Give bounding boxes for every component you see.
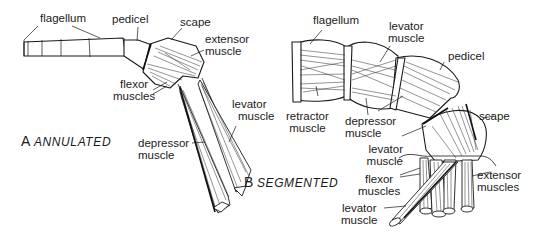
label-a-scape: scape bbox=[180, 16, 211, 28]
label-a-flexor-muscles: flexor muscles bbox=[113, 78, 155, 102]
label-b-levator-muscle-top: levator muscle bbox=[388, 20, 424, 44]
label-b-extensor-muscles: extensor muscles bbox=[477, 169, 521, 193]
label-b-levator-muscle-bottom: levator muscle bbox=[341, 202, 377, 226]
label-b-pedicel: pedicel bbox=[448, 50, 484, 62]
label-a-levator-muscle: levator muscle bbox=[232, 98, 274, 122]
label-a-pedicel: pedicel bbox=[112, 13, 148, 25]
antenna-musculature-figure: flagellum pedicel scape extensor muscle … bbox=[0, 0, 537, 237]
panel-b-caption: B SEGMENTED bbox=[244, 174, 338, 190]
label-b-flexor-muscles: flexor muscles bbox=[358, 173, 400, 197]
label-b-levator-muscle-mid: levator muscle bbox=[356, 143, 403, 167]
label-b-retractor-muscle: retractor muscle bbox=[286, 110, 329, 134]
label-a-extensor-muscle: extensor muscle bbox=[205, 33, 249, 57]
label-a-depressor-muscle: depressor muscle bbox=[138, 137, 189, 161]
label-a-flagellum: flagellum bbox=[40, 12, 86, 24]
label-b-depressor-muscle: depressor muscle bbox=[345, 115, 396, 139]
label-b-scape: scape bbox=[479, 110, 510, 122]
label-b-flagellum: flagellum bbox=[313, 14, 359, 26]
panel-a-caption: A ANNULATED bbox=[21, 133, 111, 149]
